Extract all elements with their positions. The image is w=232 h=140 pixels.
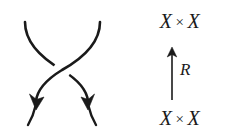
braid-crossing-diagram bbox=[0, 0, 128, 140]
codomain-right-factor: X bbox=[187, 10, 200, 32]
over-strand-ne-to-sw bbox=[36, 22, 100, 101]
domain-right-factor: X bbox=[187, 107, 200, 129]
morphism-diagram: X×X R X×X bbox=[128, 0, 232, 140]
codomain-expression: X×X bbox=[128, 11, 232, 31]
braid-crossing-svg bbox=[0, 0, 128, 140]
under-strand-path bbox=[25, 22, 88, 101]
domain-expression: X×X bbox=[128, 108, 232, 128]
codomain-product-operator: × bbox=[173, 14, 188, 30]
under-strand-nw-to-se bbox=[25, 22, 88, 101]
figure-root: X×X R X×X bbox=[0, 0, 232, 140]
left-strand-tail bbox=[28, 106, 36, 125]
codomain-math: X×X bbox=[160, 10, 200, 32]
codomain-left-factor: X bbox=[160, 10, 173, 32]
domain-left-factor: X bbox=[160, 107, 173, 129]
morphism-arrow-label: R bbox=[180, 61, 190, 78]
domain-product-operator: × bbox=[173, 111, 188, 127]
domain-math: X×X bbox=[160, 107, 200, 129]
right-strand-tail bbox=[89, 106, 97, 125]
morphism-arrow-group: R bbox=[158, 44, 218, 102]
